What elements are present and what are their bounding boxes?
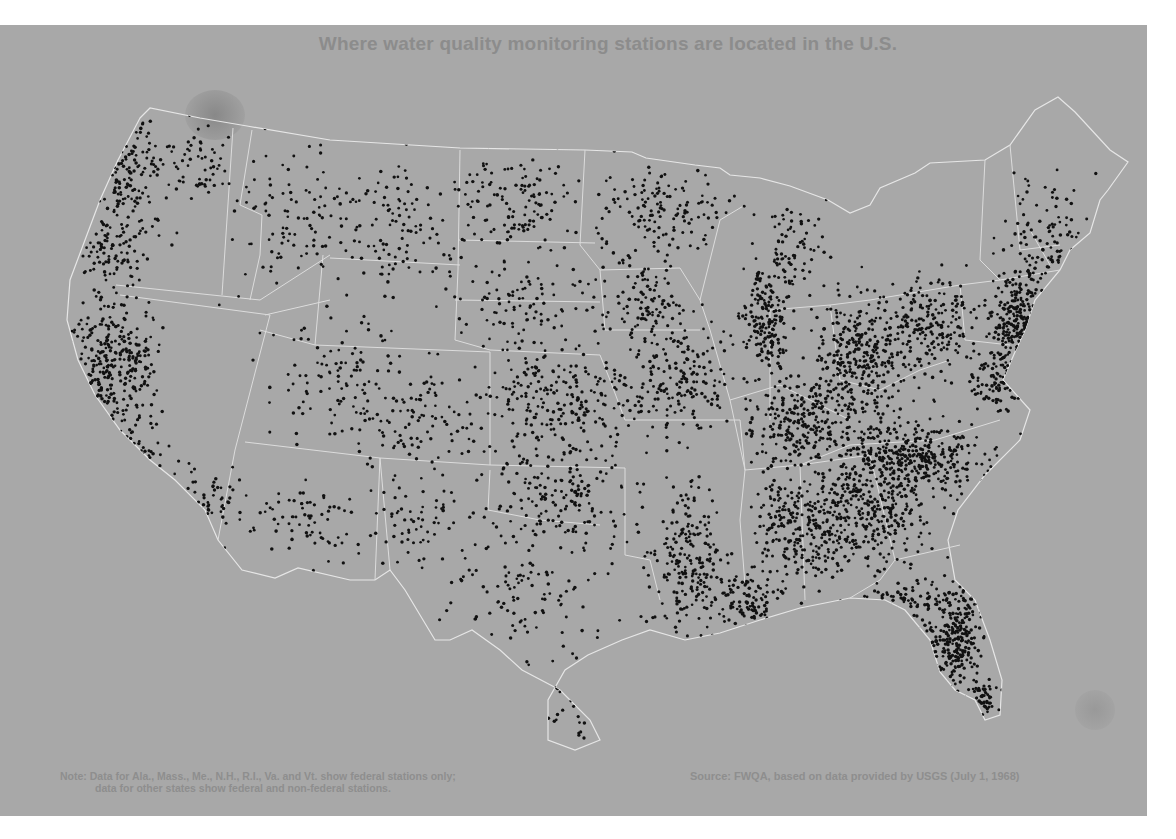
station-dot <box>512 612 515 615</box>
station-dot <box>853 616 856 619</box>
station-dot <box>467 224 470 227</box>
station-dot <box>406 244 409 247</box>
station-dot <box>391 219 394 222</box>
station-dot <box>190 197 193 200</box>
station-dot <box>951 593 955 597</box>
station-dot <box>850 396 853 399</box>
station-dot <box>89 269 92 272</box>
station-dot <box>815 545 818 548</box>
station-dot <box>853 372 856 375</box>
station-dot <box>668 367 671 370</box>
station-dot <box>863 525 866 528</box>
station-dot <box>747 608 750 611</box>
station-dot <box>769 413 772 416</box>
station-dot <box>862 445 866 449</box>
station-dot <box>683 189 686 192</box>
station-dot <box>1016 314 1019 317</box>
station-dot <box>85 395 88 398</box>
station-dot <box>688 530 691 533</box>
station-dot <box>756 277 759 280</box>
station-dot <box>1026 373 1029 376</box>
station-dot <box>888 449 891 452</box>
station-dot <box>535 523 538 526</box>
station-dot <box>870 322 873 325</box>
station-dot <box>765 533 768 536</box>
station-dot <box>976 407 979 410</box>
station-dot <box>784 509 787 512</box>
station-dot <box>334 544 337 547</box>
station-dot <box>428 237 431 240</box>
station-dot <box>190 471 193 474</box>
station-dot <box>1003 303 1006 306</box>
station-dot <box>696 532 699 535</box>
station-dot <box>436 353 439 356</box>
station-dot <box>830 488 833 491</box>
station-dot <box>879 296 882 299</box>
station-dot <box>128 130 131 133</box>
station-dot <box>652 405 655 408</box>
station-dot <box>532 225 535 228</box>
station-dot <box>1034 321 1037 324</box>
station-dot <box>398 355 401 358</box>
station-dot <box>870 524 873 527</box>
station-dot <box>1006 285 1009 288</box>
station-dot <box>894 513 898 517</box>
station-dot <box>118 243 121 246</box>
station-dot <box>1050 246 1053 249</box>
station-dot <box>882 373 885 376</box>
station-dot <box>486 205 489 208</box>
station-dot <box>714 379 717 382</box>
station-dot <box>159 158 163 162</box>
station-dot <box>245 494 248 497</box>
station-dot <box>396 187 400 191</box>
station-dot <box>921 543 924 546</box>
station-dot <box>725 644 728 647</box>
station-dot <box>769 435 772 438</box>
station-dot <box>881 497 884 500</box>
station-dot <box>689 367 692 370</box>
station-dot <box>1016 222 1019 225</box>
station-dot <box>499 187 502 190</box>
station-dot <box>139 196 142 199</box>
station-dot <box>593 524 596 527</box>
station-dot <box>920 689 923 692</box>
station-dot <box>515 435 518 438</box>
station-dot <box>901 318 904 321</box>
station-dot <box>934 471 937 474</box>
station-dot <box>1038 389 1041 392</box>
station-dot <box>908 511 912 515</box>
station-dot <box>765 413 768 416</box>
station-dot <box>840 531 843 534</box>
station-dot <box>767 275 770 278</box>
station-dot <box>138 232 141 235</box>
station-dot <box>657 590 660 593</box>
station-dot <box>866 462 869 465</box>
station-dot <box>843 365 846 368</box>
station-dot <box>486 319 489 322</box>
station-dot <box>758 515 762 519</box>
station-dot <box>817 421 820 424</box>
station-dot <box>417 445 421 449</box>
station-dot <box>620 486 623 489</box>
station-dot <box>924 337 927 340</box>
station-dot <box>914 319 917 322</box>
station-dot <box>174 487 178 491</box>
station-dot <box>650 209 653 212</box>
station-dot <box>818 384 821 387</box>
station-dot <box>605 366 608 369</box>
station-dot <box>634 249 637 252</box>
station-dot <box>355 411 358 414</box>
station-dot <box>301 507 304 510</box>
station-dot <box>397 207 400 210</box>
station-dot <box>533 374 536 377</box>
station-dot <box>366 462 369 465</box>
station-dot <box>897 462 900 465</box>
station-dot <box>527 663 530 666</box>
station-dot <box>89 205 92 208</box>
station-dot <box>579 665 582 668</box>
station-dot <box>894 529 897 532</box>
station-dot <box>971 390 974 393</box>
station-dot <box>957 635 960 638</box>
station-dot <box>119 379 122 382</box>
station-dot <box>692 310 695 313</box>
